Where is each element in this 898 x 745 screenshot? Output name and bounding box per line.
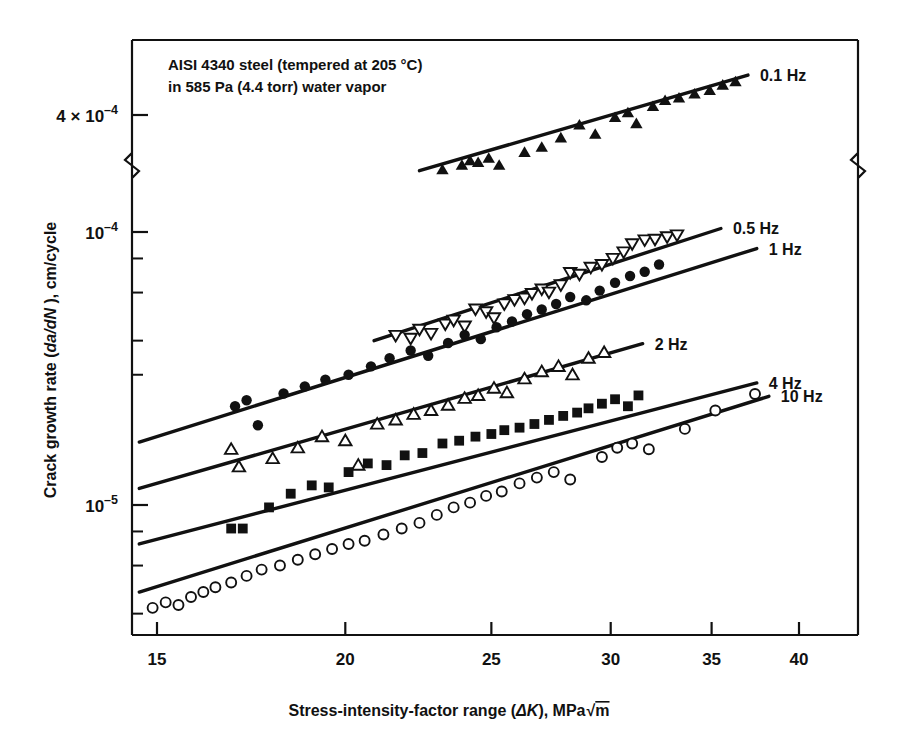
data-point (344, 539, 354, 549)
data-point (515, 478, 525, 488)
data-point (257, 565, 267, 575)
x-tick-label: 40 (790, 650, 809, 669)
data-point (432, 510, 442, 520)
y-axis-title: Crack growth rate (da/dN ), cm/cycle (42, 222, 59, 499)
data-point (438, 439, 448, 449)
data-point (363, 459, 373, 469)
data-point (610, 278, 620, 288)
data-point (344, 467, 354, 477)
data-point (486, 429, 496, 439)
data-point (584, 403, 594, 413)
x-tick-label: 25 (482, 650, 501, 669)
data-point (293, 555, 303, 565)
data-point (627, 438, 637, 448)
y-axis-title-post: ), cm/cycle (42, 222, 59, 308)
data-point (449, 502, 459, 512)
data-point (320, 374, 330, 384)
data-point (161, 597, 171, 607)
data-point (382, 460, 392, 470)
x-tick-label: 30 (601, 650, 620, 669)
annotation-line-2: in 585 Pa (4.4 torr) water vapor (168, 78, 387, 95)
data-point (565, 474, 575, 484)
series-frequency-label: 0.5 Hz (733, 220, 779, 237)
data-point (497, 487, 507, 497)
data-point (300, 381, 310, 391)
data-point (623, 401, 633, 411)
data-point (238, 524, 248, 534)
y-axis-title-pre: Crack growth rate ( (42, 352, 59, 498)
data-point (186, 592, 196, 602)
data-point (581, 295, 591, 305)
data-point (532, 473, 542, 483)
fatigue-crack-growth-chart: 152025303540 4 × 10–410–410–5 0.1 Hz0.5 … (0, 0, 898, 745)
data-point (343, 370, 353, 380)
annotation-line-1: AISI 4340 steel (tempered at 205 °C) (168, 56, 422, 73)
data-point (597, 452, 607, 462)
y-axis-title-symbol: da/dN (42, 308, 59, 353)
data-point (634, 391, 644, 401)
data-point (610, 394, 620, 404)
series-frequency-label: 0.1 Hz (760, 67, 806, 84)
svg-text:Crack growth rate (da/dN ), cm: Crack growth rate (da/dN ), cm/cycle (42, 222, 59, 499)
data-point (414, 518, 424, 528)
data-point (173, 600, 183, 610)
data-point (572, 408, 582, 418)
data-point (327, 544, 337, 554)
data-point (680, 424, 690, 434)
data-point (710, 405, 720, 415)
data-point (459, 330, 469, 340)
data-point (537, 304, 547, 314)
data-point (226, 524, 236, 534)
x-axis-title: Stress-intensity-factor range (ΔK), MPa√… (288, 702, 609, 719)
data-point (210, 582, 220, 592)
data-point (654, 259, 664, 269)
data-point (378, 529, 388, 539)
series-frequency-label: 10 Hz (781, 388, 823, 405)
data-point (507, 316, 517, 326)
data-point (750, 389, 760, 399)
series-frequency-label: 2 Hz (655, 336, 688, 353)
data-point (307, 480, 317, 490)
data-point (594, 285, 604, 295)
data-point (242, 571, 252, 581)
data-point (286, 489, 296, 499)
data-point (625, 271, 635, 281)
data-point (230, 401, 240, 411)
x-tick-label: 35 (702, 650, 721, 669)
x-axis-title-symbol: ΔK (515, 702, 540, 719)
data-point (565, 292, 575, 302)
data-point (481, 491, 491, 501)
series-frequency-label: 1 Hz (769, 241, 802, 258)
data-point (530, 419, 540, 429)
x-axis-title-unit: m (595, 702, 609, 719)
data-point (522, 309, 532, 319)
data-point (397, 524, 407, 534)
data-point (253, 420, 263, 430)
data-point (640, 267, 650, 277)
data-point (423, 351, 433, 361)
data-point (278, 388, 288, 398)
data-point (310, 549, 320, 559)
data-point (366, 361, 376, 371)
data-point (148, 603, 158, 613)
data-point (264, 502, 274, 512)
data-point (644, 444, 654, 454)
data-point (400, 450, 410, 460)
data-point (324, 483, 334, 493)
x-axis-title-post: ), MPa (538, 702, 585, 719)
data-point (558, 411, 568, 421)
figure-root: 152025303540 4 × 10–410–410–5 0.1 Hz0.5 … (0, 0, 898, 745)
data-point (471, 432, 481, 442)
data-point (544, 415, 554, 425)
x-tick-label: 20 (336, 650, 355, 669)
data-point (476, 334, 486, 344)
data-point (491, 322, 501, 332)
data-point (360, 536, 370, 546)
data-point (417, 448, 427, 458)
x-tick-label: 15 (148, 650, 167, 669)
chart-background (0, 0, 898, 745)
data-point (549, 467, 559, 477)
data-point (465, 498, 475, 508)
data-point (275, 561, 285, 571)
data-point (443, 338, 453, 348)
